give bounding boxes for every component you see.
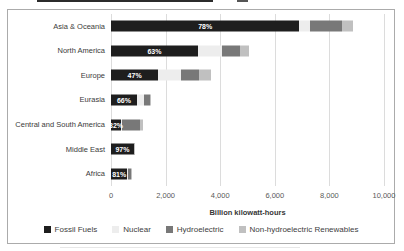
category-label: Europe	[7, 63, 111, 88]
legend-item: Hydroelectric	[166, 225, 224, 234]
bar-percent-label: 66%	[117, 96, 131, 103]
bar-row: Europe47%	[111, 63, 384, 88]
legend-swatch	[239, 226, 246, 233]
plot-area: Asia & Oceania78%North America63%Europe4…	[111, 14, 384, 186]
bar-row: Central and South America32%	[111, 112, 384, 137]
bar-percent-label: 32%	[109, 121, 123, 128]
bar-segment	[199, 70, 212, 81]
bar-percent-label: 78%	[198, 23, 212, 30]
bar-row: Middle East97%	[111, 137, 384, 162]
bar-row: North America63%	[111, 39, 384, 64]
legend-item: Fossil Fuels	[44, 225, 98, 234]
x-tick-label: 2,000	[156, 191, 175, 200]
bar-percent-label: 81%	[112, 170, 126, 177]
x-tick-label: 8,000	[320, 191, 339, 200]
bar-segment	[140, 119, 143, 130]
x-tick-label: 10,000	[373, 191, 396, 200]
bar-segment	[122, 119, 140, 130]
legend-label: Nuclear	[123, 225, 151, 234]
chart-frame: Asia & Oceania78%North America63%Europe4…	[7, 9, 395, 244]
category-label: Middle East	[7, 137, 111, 162]
scan-artifact-line	[237, 0, 248, 2]
x-tick-label: 6,000	[265, 191, 284, 200]
category-label: Central and South America	[7, 112, 111, 137]
x-tick-label: 0	[109, 191, 113, 200]
screenshot-root: Asia & Oceania78%North America63%Europe4…	[0, 0, 404, 251]
x-axis-ticks: 02,0004,0006,0008,00010,000	[111, 191, 384, 201]
legend: Fossil FuelsNuclearHydroelectricNon-hydr…	[8, 225, 394, 234]
bar-segment	[158, 70, 181, 81]
x-tick-label: 4,000	[211, 191, 230, 200]
bar-segment	[240, 45, 249, 56]
bar-row: Asia & Oceania78%	[111, 14, 384, 39]
scan-artifact-line	[37, 0, 213, 2]
bar-percent-label: 63%	[147, 47, 161, 54]
bar-segment	[198, 45, 222, 56]
gridline	[384, 14, 385, 186]
bar-percent-label: 47%	[128, 72, 142, 79]
bar-segment	[299, 21, 310, 32]
category-label: Africa	[7, 161, 111, 186]
legend-label: Non-hydroelectric Renewables	[250, 225, 359, 234]
legend-item: Non-hydroelectric Renewables	[239, 225, 359, 234]
category-label: Asia & Oceania	[7, 14, 111, 39]
legend-label: Hydroelectric	[177, 225, 224, 234]
legend-label: Fossil Fuels	[55, 225, 98, 234]
legend-swatch	[44, 226, 51, 233]
scan-artifact-smudge	[60, 247, 300, 248]
bar-segment	[310, 21, 341, 32]
bar-segment	[342, 21, 353, 32]
bar-segment	[131, 168, 132, 179]
bar-segment	[181, 70, 198, 81]
legend-swatch	[166, 226, 173, 233]
category-label: Eurasia	[7, 88, 111, 113]
bar-percent-label: 97%	[115, 146, 129, 153]
bar-segment	[137, 94, 144, 105]
legend-item: Nuclear	[112, 225, 151, 234]
category-label: North America	[7, 39, 111, 64]
bar-row: Africa81%	[111, 161, 384, 186]
bar-segment	[222, 45, 240, 56]
x-axis-title: Billion kilowatt-hours	[111, 208, 384, 217]
legend-swatch	[112, 226, 119, 233]
bar-row: Eurasia66%	[111, 88, 384, 113]
